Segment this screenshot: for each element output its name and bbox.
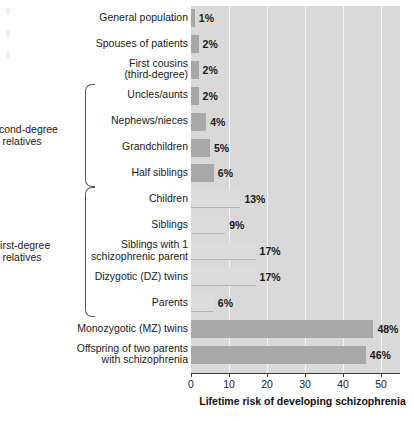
bar-value-label: 13% xyxy=(244,190,265,208)
bar-value-label: 5% xyxy=(214,139,229,157)
category-label: Parents xyxy=(8,297,188,309)
bar xyxy=(191,87,199,105)
bar xyxy=(191,268,256,286)
x-axis-tick xyxy=(191,373,192,377)
category-label: Children xyxy=(8,193,188,205)
bar-value-label: 1% xyxy=(199,9,214,27)
gridline xyxy=(267,6,268,373)
bar xyxy=(191,320,373,338)
bar-value-label: 46% xyxy=(370,346,391,364)
bar-value-label: 2% xyxy=(203,87,218,105)
category-label: First cousins (third-degree) xyxy=(8,58,188,81)
bar xyxy=(191,294,214,312)
category-label: Offspring of two parents with schizophre… xyxy=(8,343,188,366)
bar-value-label: 17% xyxy=(260,242,281,260)
bar-value-label: 9% xyxy=(229,216,244,234)
x-axis-tick xyxy=(229,373,230,377)
x-axis-tick xyxy=(267,373,268,377)
x-axis-tick-label: 10 xyxy=(214,378,244,390)
category-label: Siblings xyxy=(8,219,188,231)
category-label: General population xyxy=(8,12,188,24)
bar xyxy=(191,61,199,79)
x-axis-tick xyxy=(381,373,382,377)
gridline xyxy=(343,6,344,373)
bar xyxy=(191,242,256,260)
x-axis-title: Lifetime risk of developing schizophreni… xyxy=(191,395,414,407)
category-label: Dizygotic (DZ) twins xyxy=(8,271,188,283)
group-bracket xyxy=(85,84,95,188)
bar-value-label: 48% xyxy=(377,320,398,338)
bar xyxy=(191,216,225,234)
bar xyxy=(191,113,206,131)
bar xyxy=(191,9,195,27)
category-label: Spouses of patients xyxy=(8,38,188,50)
category-label: Half siblings xyxy=(8,167,188,179)
x-axis-tick-label: 40 xyxy=(328,378,358,390)
bar xyxy=(191,190,240,208)
group-label: Second-degree relatives xyxy=(0,123,82,147)
bar-value-label: 6% xyxy=(218,294,233,312)
x-axis-tick-label: 30 xyxy=(290,378,320,390)
bar xyxy=(191,35,199,53)
gridline xyxy=(381,6,382,373)
category-label: Uncles/aunts xyxy=(8,89,188,101)
x-axis-tick-label: 20 xyxy=(252,378,282,390)
bar xyxy=(191,139,210,157)
bar xyxy=(191,346,366,364)
x-axis-line xyxy=(191,373,400,374)
group-label: First-degree relatives xyxy=(0,239,82,263)
scan-artifact xyxy=(6,30,10,37)
bar-value-label: 4% xyxy=(210,113,225,131)
x-axis-tick-label: 0 xyxy=(176,378,206,390)
x-axis-tick xyxy=(343,373,344,377)
gridline xyxy=(305,6,306,373)
category-label: Monozygotic (MZ) twins xyxy=(8,323,188,335)
x-axis-tick xyxy=(305,373,306,377)
x-axis-tick-label: 50 xyxy=(366,378,396,390)
bar-value-label: 6% xyxy=(218,164,233,182)
group-bracket xyxy=(85,187,95,317)
bar-value-label: 2% xyxy=(203,35,218,53)
bar-value-label: 17% xyxy=(260,268,281,286)
bar-value-label: 2% xyxy=(203,61,218,79)
chart-figure: 1%General population2%Spouses of patient… xyxy=(0,0,414,421)
bar xyxy=(191,164,214,182)
